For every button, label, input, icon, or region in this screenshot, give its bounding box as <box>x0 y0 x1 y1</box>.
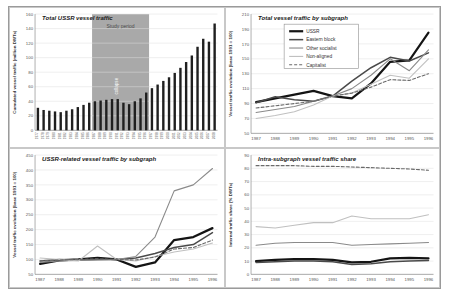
x-tick-label: 1994 <box>132 132 136 139</box>
x-tick-label: 1994 <box>385 136 395 141</box>
y-tick-label: 0 <box>31 128 34 133</box>
y-tick-label: 20 <box>244 245 249 250</box>
x-tick-label: 1996 <box>143 132 147 139</box>
y-tick-label: 150 <box>241 56 249 61</box>
x-tick-label: 1991 <box>327 136 337 141</box>
bar-1995 <box>139 98 141 130</box>
y-tick-label: 0 <box>246 271 249 276</box>
bar-1979 <box>48 111 50 131</box>
y-tick-label: 70 <box>244 179 249 184</box>
x-tick-label: 1994 <box>169 277 179 282</box>
x-tick-label: 1982 <box>63 132 67 139</box>
y-tick-label: 130 <box>241 71 249 76</box>
bar-1983 <box>71 109 73 130</box>
x-tick-label: 1993 <box>366 136 376 141</box>
bar-2005 <box>196 47 198 131</box>
x-tick-label: 1993 <box>126 132 130 139</box>
y-tick-label: 170 <box>241 41 249 46</box>
legend-label-non-aligned: Non-aligned <box>306 54 332 59</box>
x-tick-label: 1993 <box>150 277 160 282</box>
x-tick-label: 1992 <box>347 136 357 141</box>
series-line-eastern-block <box>40 232 212 260</box>
y-tick-label: 100 <box>26 257 34 262</box>
x-tick-label: 2005 <box>195 132 199 139</box>
legend-label-other-socialist: Other socialist <box>306 46 337 51</box>
study-period-label: Study period <box>107 23 135 29</box>
legend: USSREastern blockOther socialistNon-alig… <box>284 24 358 68</box>
x-tick-label: 1995 <box>138 132 142 139</box>
x-tick-label: 1978 <box>41 132 45 139</box>
chart-ussr-related-vessel-traffic-by-subgraph: 5010015020025030035040045019871988198919… <box>9 148 225 289</box>
x-tick-label: 2007 <box>206 132 210 139</box>
intra-subgraph-vessel-traffic-share-plot: 0102030405060708090198719881989199019911… <box>226 149 440 288</box>
y-tick-label: 400 <box>26 167 34 172</box>
x-tick-label: 1988 <box>98 132 102 139</box>
y-tick-label: 40 <box>28 99 33 104</box>
x-tick-label: 1991 <box>115 132 119 139</box>
x-tick-label: 2003 <box>183 132 187 139</box>
x-tick-label: 1980 <box>52 132 56 139</box>
x-tick-label: 1989 <box>289 277 299 282</box>
x-tick-label: 1983 <box>69 132 73 139</box>
x-tick-label: 2000 <box>166 132 170 139</box>
bar-1993 <box>128 104 130 130</box>
y-tick-label: 30 <box>244 232 249 237</box>
y-tick-label: 80 <box>244 165 249 170</box>
x-tick-label: 1995 <box>404 136 414 141</box>
bar-1978 <box>42 110 44 130</box>
bar-1980 <box>54 111 56 130</box>
x-tick-label: 1981 <box>58 132 62 139</box>
bar-1977 <box>37 108 39 131</box>
x-tick-label: 1991 <box>112 277 122 282</box>
x-tick-label: 1995 <box>404 277 414 282</box>
bar-1986 <box>88 103 90 131</box>
bar-2001 <box>174 73 176 130</box>
x-tick-label: 1988 <box>270 277 280 282</box>
bar-1989 <box>105 100 107 131</box>
y-tick-label: 150 <box>26 242 34 247</box>
x-tick-label: 1996 <box>208 277 218 282</box>
chart-total-vessel-traffic-by-subgraph: 5070901101301501701902101987198819891990… <box>225 7 441 148</box>
x-tick-label: 1996 <box>423 277 433 282</box>
y-axis-title: Internal traffic share (% DWTs) <box>228 182 233 247</box>
y-tick-label: 90 <box>244 152 249 157</box>
bar-1998 <box>156 85 158 131</box>
x-tick-label: 1990 <box>308 277 318 282</box>
charts-grid: Study periodcollapse02040608010012014016… <box>8 6 441 289</box>
y-tick-label: 210 <box>241 12 249 17</box>
y-tick-label: 190 <box>241 27 249 32</box>
y-tick-label: 80 <box>28 70 33 75</box>
collapse-label: collapse <box>114 77 119 94</box>
x-tick-label: 2001 <box>172 132 176 139</box>
total-vessel-traffic-by-subgraph-plot: 5070901101301501701902101987198819891990… <box>226 8 440 147</box>
x-tick-label: 1993 <box>366 277 376 282</box>
y-tick-label: 250 <box>26 212 34 217</box>
x-tick-label: 1987 <box>251 277 261 282</box>
y-tick-label: 90 <box>244 101 249 106</box>
x-tick-label: 1992 <box>131 277 141 282</box>
y-tick-label: 450 <box>26 152 34 157</box>
x-tick-label: 1990 <box>109 132 113 139</box>
series-line-capitalist <box>256 165 428 170</box>
y-tick-label: 40 <box>244 218 249 223</box>
x-tick-label: 1986 <box>86 132 90 139</box>
y-tick-label: 20 <box>28 113 33 118</box>
bar-2000 <box>168 77 170 130</box>
x-tick-label: 1987 <box>35 277 45 282</box>
y-tick-label: 120 <box>26 41 34 46</box>
y-tick-label: 200 <box>26 227 34 232</box>
bar-1996 <box>145 93 147 131</box>
x-tick-label: 2008 <box>212 132 216 139</box>
x-tick-label: 1992 <box>347 277 357 282</box>
bar-1991 <box>117 99 119 130</box>
x-tick-label: 1985 <box>81 132 85 139</box>
chart-intra-subgraph-vessel-traffic-share: 0102030405060708090198719881989199019911… <box>225 148 441 289</box>
y-tick-label: 50 <box>28 271 33 276</box>
bar-1981 <box>60 112 62 130</box>
x-tick-label: 1992 <box>120 132 124 139</box>
y-axis-title: Vessel traffic evolution (base 1991 = 10… <box>228 30 233 116</box>
legend-label-capitalist: Capitalist <box>306 63 326 68</box>
series-line-other-socialist <box>256 242 428 245</box>
x-tick-label: 1987 <box>251 136 261 141</box>
y-tick-label: 50 <box>244 205 249 210</box>
